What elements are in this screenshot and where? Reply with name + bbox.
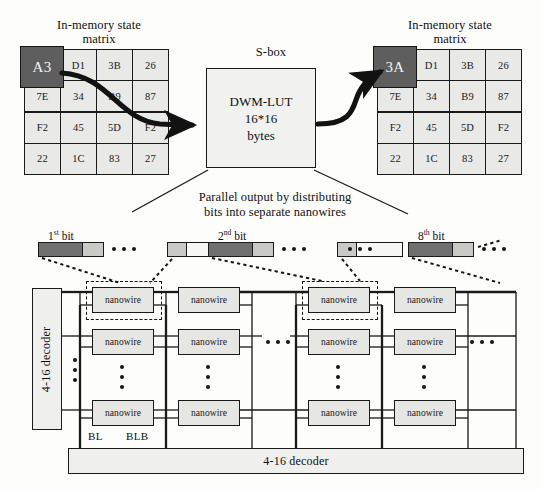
matrix-cell: 27	[133, 144, 168, 174]
matrix-cell: F2	[133, 113, 168, 143]
matrix-cell: 3B	[97, 50, 132, 80]
matrix-cell: 83	[97, 144, 132, 174]
matrix-cell: B9	[97, 81, 132, 111]
sbox-block: DWM-LUT 16*16 bytes	[206, 68, 316, 168]
bit-word-8: bit	[432, 230, 444, 242]
bit-strip-8a	[408, 242, 474, 257]
bl-label: BL	[88, 430, 103, 442]
bit-label-8: 8th bit	[418, 228, 445, 242]
bit-suffix-2: nd	[224, 228, 232, 237]
nanowire-cell: nanowire	[394, 329, 456, 355]
matrix-cell: 34	[414, 81, 449, 111]
array-mid-ellipsis	[266, 340, 290, 344]
matrix-cell: 26	[486, 50, 521, 80]
nanowire-cell: nanowire	[394, 400, 456, 426]
left-decoder: 4-16 decoder	[32, 288, 62, 430]
matrix-cell: 3B	[450, 50, 485, 80]
bottom-decoder: 4-16 decoder	[68, 448, 524, 474]
column-1-ellipsis	[120, 365, 124, 389]
nanowire-cell: nanowire	[92, 400, 154, 426]
sbox-title: S-box	[226, 45, 316, 59]
bit-segment	[209, 243, 253, 256]
nanowire-cell: nanowire	[308, 400, 370, 426]
bit-segment	[83, 243, 103, 256]
right-matrix-highlighted-cell: 3A	[373, 46, 417, 88]
matrix-cell: F2	[25, 113, 60, 143]
matrix-cell: 87	[133, 81, 168, 111]
matrix-cell: 45	[61, 113, 96, 143]
nanowire-cell: nanowire	[92, 329, 154, 355]
sbox-line-2: 16*16	[245, 110, 278, 127]
bit-segment	[409, 243, 453, 256]
bit-suffix-1: st	[54, 228, 59, 237]
diagram-canvas: In-memory state matrix A3 D1 3B 26 7E 34…	[0, 0, 541, 490]
bit-strip-2a	[208, 242, 274, 257]
matrix-cell: 5D	[450, 113, 485, 143]
sbox-line-3: bytes	[247, 127, 274, 144]
sbox-line-1: DWM-LUT	[230, 93, 293, 110]
array-right-ellipsis	[470, 340, 494, 344]
nanowire-cell: nanowire	[394, 287, 456, 313]
bottom-decoder-label: 4-16 decoder	[263, 454, 328, 469]
matrix-cell: 83	[450, 144, 485, 174]
bit-suffix-8: th	[424, 228, 430, 237]
bit-label-2: 2nd bit	[218, 228, 246, 242]
left-matrix-title: In-memory state matrix	[24, 18, 174, 46]
bit-row-2-ellipsis	[282, 247, 306, 251]
bit-row-8-ellipsis	[482, 247, 506, 251]
column-3-ellipsis	[336, 365, 340, 389]
selected-nanowire-outline	[86, 281, 162, 320]
matrix-cell: 45	[414, 113, 449, 143]
matrix-cell: 34	[61, 81, 96, 111]
arrow-sbox-to-matrix	[318, 72, 380, 124]
matrix-cell: 22	[378, 144, 413, 174]
bit-word-1: bit	[62, 230, 74, 242]
bit-segment	[253, 243, 273, 256]
column-2-ellipsis	[206, 365, 210, 389]
matrix-cell: F2	[378, 113, 413, 143]
matrix-cell: 22	[25, 144, 60, 174]
matrix-cell: D1	[61, 50, 96, 80]
bit-segment	[39, 243, 83, 256]
nanowire-cell: nanowire	[178, 329, 240, 355]
bit-segment	[453, 243, 473, 256]
column-4-ellipsis	[422, 365, 426, 389]
bit-word-2: bit	[234, 230, 246, 242]
matrix-cell: 87	[486, 81, 521, 111]
nanowire-cell: nanowire	[308, 329, 370, 355]
parallel-output-caption: Parallel output by distributing bits int…	[160, 190, 390, 220]
nanowire-cell: nanowire	[178, 400, 240, 426]
bit-segment	[168, 243, 187, 256]
matrix-cell: 5D	[97, 113, 132, 143]
bit-row-1-ellipsis	[112, 247, 136, 251]
bit-label-1: 1st bit	[48, 228, 74, 242]
wordline-ellipsis	[73, 358, 77, 382]
bit-strip-1a	[38, 242, 104, 257]
right-matrix-title: In-memory state matrix	[375, 18, 525, 46]
matrix-cell: 26	[133, 50, 168, 80]
matrix-cell: F2	[486, 113, 521, 143]
matrix-cell: D1	[414, 50, 449, 80]
matrix-cell: B9	[450, 81, 485, 111]
left-decoder-label: 4-16 decoder	[40, 326, 55, 391]
bit-groups-ellipsis-mid	[348, 247, 372, 251]
selected-nanowire-outline-2	[302, 281, 378, 320]
blb-label: BLB	[126, 430, 148, 442]
matrix-cell: 27	[486, 144, 521, 174]
matrix-cell: 1C	[61, 144, 96, 174]
nanowire-cell: nanowire	[178, 287, 240, 313]
matrix-cell: 1C	[414, 144, 449, 174]
left-matrix-highlighted-cell: A3	[20, 46, 64, 88]
